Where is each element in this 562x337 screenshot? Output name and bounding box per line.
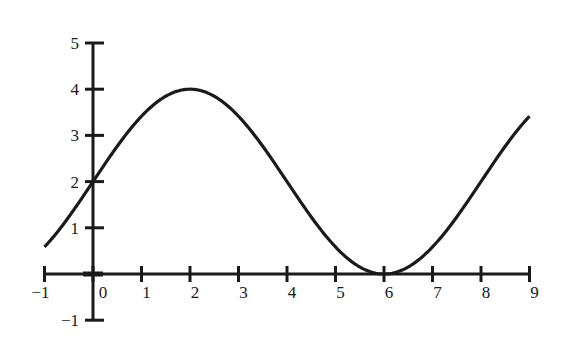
- y-tick-label: 4: [71, 80, 80, 99]
- x-tick-label: 5: [336, 283, 345, 302]
- x-tick-label: 7: [433, 283, 442, 302]
- y-tick-label: 3: [71, 126, 80, 145]
- tick-labels: −10123456789−112345: [31, 34, 538, 330]
- x-tick-label: 3: [239, 283, 248, 302]
- x-tick-label: 8: [482, 283, 491, 302]
- y-tick-label: 2: [71, 173, 80, 192]
- y-tick-label: 1: [71, 219, 80, 238]
- x-tick-label: −1: [31, 283, 49, 302]
- x-tick-label: 9: [530, 283, 539, 302]
- x-tick-label: 6: [385, 283, 394, 302]
- chart: −10123456789−112345: [0, 0, 562, 337]
- y-tick-label: 5: [71, 34, 80, 53]
- x-tick-label: 2: [191, 283, 200, 302]
- x-tick-label: 0: [99, 283, 108, 302]
- x-tick-label: 1: [142, 283, 151, 302]
- y-tick-label: −1: [61, 311, 79, 330]
- sine-curve: [45, 89, 530, 274]
- x-tick-label: 4: [288, 283, 297, 302]
